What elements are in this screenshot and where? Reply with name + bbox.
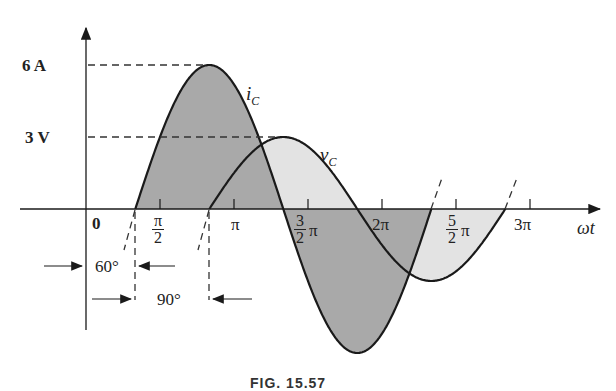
tick-label-pi: π bbox=[231, 216, 240, 233]
current-curve-label: iC bbox=[246, 84, 259, 107]
current-peak-label: 6 A bbox=[22, 57, 46, 74]
origin-label: 0 bbox=[92, 215, 101, 232]
voltage-curve-label: vC bbox=[320, 145, 336, 168]
tick-label-three-half-pi-suffix: π bbox=[309, 222, 318, 239]
x-axis-label: ωt bbox=[577, 219, 595, 237]
phase-60-label: 60° bbox=[95, 258, 119, 275]
tick-label-three-half-pi: 32 bbox=[294, 213, 306, 246]
voltage-peak-label: 3 V bbox=[25, 129, 50, 146]
current-extension-dash bbox=[124, 210, 135, 250]
tick-label-five-half-pi: 52 bbox=[446, 213, 458, 246]
tick-label-two-pi: 2π bbox=[372, 216, 389, 233]
voltage-extension-dash bbox=[198, 210, 209, 250]
tick-label-five-half-pi-suffix: π bbox=[461, 222, 470, 239]
figure-caption: FIG. 15.57 bbox=[250, 375, 326, 391]
phase-90-label: 90° bbox=[157, 291, 181, 308]
current-extension-dash-2 bbox=[431, 178, 442, 209]
tick-label-half-pi: π2 bbox=[152, 213, 164, 246]
voltage-extension-dash-2 bbox=[505, 178, 517, 209]
tick-label-three-pi: 3π bbox=[514, 216, 531, 233]
